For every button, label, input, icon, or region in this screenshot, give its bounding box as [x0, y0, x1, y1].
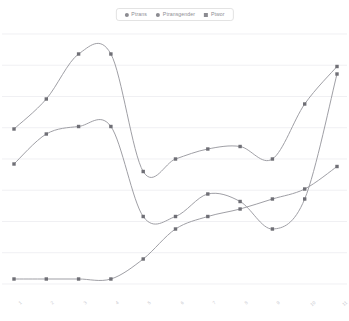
data-point-marker [109, 125, 112, 128]
data-point-markers [12, 52, 338, 280]
series-line-ptransgender [14, 74, 337, 229]
data-point-marker [271, 227, 274, 230]
plot-svg [0, 26, 349, 298]
x-tick-label: 6 [179, 300, 184, 305]
legend-marker-icon [124, 13, 128, 17]
data-point-marker [335, 72, 338, 75]
x-tick-label: 4 [115, 300, 120, 305]
x-tick-label: 3 [82, 300, 87, 305]
data-point-marker [238, 200, 241, 203]
legend-label: Ptransgender [163, 12, 195, 17]
data-point-marker [174, 157, 177, 160]
plot-area [0, 26, 349, 298]
data-point-marker [303, 102, 306, 105]
data-point-marker [12, 277, 15, 280]
data-point-marker [12, 162, 15, 165]
data-point-marker [174, 227, 177, 230]
data-point-marker [271, 197, 274, 200]
data-point-marker [77, 125, 80, 128]
x-tick-label: 1 [18, 300, 23, 305]
data-point-marker [142, 170, 145, 173]
data-point-marker [335, 165, 338, 168]
data-point-marker [45, 277, 48, 280]
data-point-marker [206, 192, 209, 195]
data-point-marker [109, 277, 112, 280]
data-point-marker [174, 215, 177, 218]
x-tick-label: 9 [276, 300, 281, 305]
data-point-marker [77, 52, 80, 55]
data-point-marker [303, 197, 306, 200]
x-tick-label: 7 [211, 300, 216, 305]
legend-marker-icon [156, 13, 160, 17]
data-point-marker [45, 132, 48, 135]
data-point-marker [303, 187, 306, 190]
data-point-marker [142, 215, 145, 218]
legend-item-ptwor[interactable]: Ptwor [204, 12, 225, 17]
data-point-marker [142, 257, 145, 260]
legend-label: Ptwor [211, 12, 225, 17]
series-lines [14, 43, 337, 280]
legend-item-ptransgender[interactable]: Ptransgender [156, 12, 195, 17]
data-point-marker [12, 127, 15, 130]
x-tick-label: 11 [341, 300, 348, 307]
data-point-marker [109, 52, 112, 55]
data-point-marker [271, 157, 274, 160]
x-tick-label: 2 [50, 300, 55, 305]
legend-marker-icon [204, 13, 208, 17]
data-point-marker [77, 277, 80, 280]
legend-item-ptrans[interactable]: Ptrans [124, 12, 146, 17]
data-point-marker [206, 215, 209, 218]
data-point-marker [206, 147, 209, 150]
legend-label: Ptrans [131, 12, 146, 17]
data-point-marker [238, 207, 241, 210]
x-tick-label: 8 [244, 300, 249, 305]
data-point-marker [335, 65, 338, 68]
data-point-marker [238, 145, 241, 148]
line-chart: Ptrans Ptransgender Ptwor 1234567891011 [0, 0, 349, 321]
x-axis-tick-labels: 1234567891011 [0, 298, 349, 321]
chart-legend: Ptrans Ptransgender Ptwor [115, 8, 233, 21]
x-tick-label: 5 [147, 300, 152, 305]
data-point-marker [45, 97, 48, 100]
x-tick-label: 10 [309, 300, 316, 307]
